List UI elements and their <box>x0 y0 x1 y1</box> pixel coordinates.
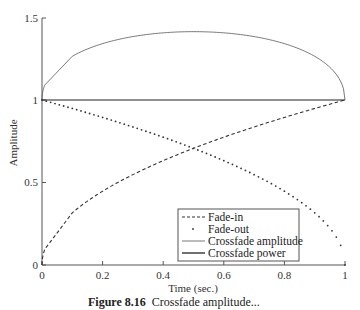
x-axis-label: Time (sec.) <box>168 282 218 295</box>
x-tick-0: 0 <box>39 269 45 281</box>
figure-caption: Figure 8.16Crossfade amplitude... <box>88 295 260 310</box>
y-tick-0: 0 <box>33 259 39 271</box>
x-tick-0-8: 0.8 <box>278 269 292 281</box>
legend-label: Fade-out <box>208 223 250 235</box>
figure-number: Figure 8.16 <box>88 295 146 309</box>
legend: Fade-in Fade-out Crossfade amplitude Cro… <box>178 209 303 261</box>
x-tick-0-6: 0.6 <box>217 269 231 281</box>
dot-swatch <box>192 228 194 230</box>
x-tick-1: 1 <box>342 269 348 281</box>
series-crossfade-amplitude <box>42 32 345 100</box>
x-tick-0-2: 0.2 <box>96 269 110 281</box>
caption-text: Crossfade amplitude... <box>152 295 260 309</box>
legend-label: Crossfade power <box>208 247 286 260</box>
legend-label: Fade-in <box>208 211 243 223</box>
y-tick-1-5: 1.5 <box>24 12 38 24</box>
y-axis-label: Amplitude <box>7 119 19 166</box>
y-tick-labels: 0 0.5 1 1.5 <box>24 12 38 271</box>
y-tick-0-5: 0.5 <box>24 176 38 188</box>
x-tick-labels: 0 0.2 0.4 0.6 0.8 1 <box>39 269 348 281</box>
x-tick-0-4: 0.4 <box>156 269 170 281</box>
y-tick-1: 1 <box>33 94 39 106</box>
